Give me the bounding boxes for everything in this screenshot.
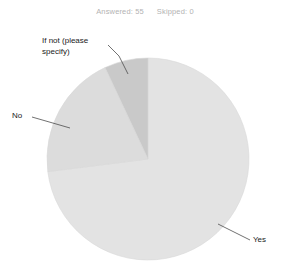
pie-label-if-not: If not (please specify) — [42, 36, 88, 57]
leader-line-yes — [218, 224, 250, 240]
pie-label-no: No — [12, 111, 22, 122]
pie-label-if-not-line1: If not (please — [42, 36, 88, 47]
pie-chart-container: Answered: 55Skipped: 0 If not (please sp… — [0, 0, 290, 276]
pie-label-if-not-line2: specify) — [42, 47, 88, 58]
pie-label-yes: Yes — [253, 235, 266, 246]
